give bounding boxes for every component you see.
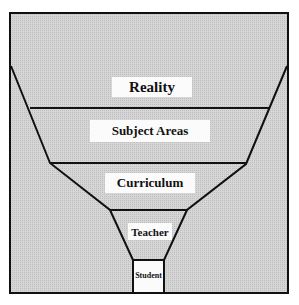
funnel-diagram — [0, 0, 299, 305]
outer-frame — [10, 13, 288, 293]
level-subject-areas-label: Subject Areas — [90, 120, 210, 142]
level-student-label: Student — [134, 268, 163, 282]
level-teacher-label: Teacher — [128, 223, 172, 240]
level-reality-label: Reality — [112, 77, 192, 97]
level-curriculum-label: Curriculum — [105, 173, 195, 193]
